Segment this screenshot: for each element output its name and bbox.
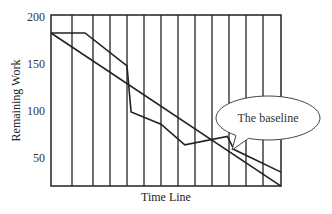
y-tick-label: 100	[27, 104, 45, 118]
y-tick-label: 50	[33, 151, 45, 165]
vertical-gridlines	[72, 15, 263, 186]
callout-text: The baseline	[238, 111, 299, 125]
y-tick-label: 200	[27, 10, 45, 24]
y-axis-ticks: 20015010050	[27, 10, 45, 165]
y-axis-label: Remaining Work	[9, 60, 23, 142]
burndown-chart: 20015010050 The baseline Remaining Work …	[0, 0, 332, 214]
x-axis-label: Time Line	[141, 190, 191, 204]
baseline-callout: The baseline	[216, 96, 320, 150]
y-tick-label: 150	[27, 57, 45, 71]
